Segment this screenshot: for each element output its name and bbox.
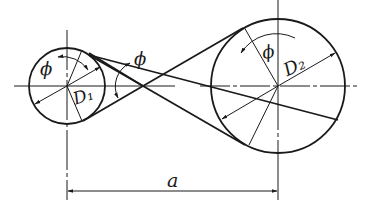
large-diameter-label: D₂ (279, 52, 308, 81)
wrap-angle-small-label: ϕ (40, 58, 52, 79)
cross-angle-label: ϕ (134, 48, 146, 69)
small-radius-to-upper-tangent (67, 50, 82, 86)
belt-to-large-bottom (143, 86, 245, 145)
small-diameter-line (35, 86, 67, 104)
small-wrap-angle-arc (58, 57, 88, 70)
cross-angle-arc (115, 63, 130, 98)
large-diameter-label-text: D₂ (279, 52, 308, 81)
small-diameter-label: D₁ (69, 83, 96, 109)
belt-to-large-top (143, 28, 243, 86)
wrap-angle-large-label: ϕ (260, 40, 276, 63)
small-diameter-label-text: D₁ (69, 83, 96, 109)
crossed-belt-diagram: ϕ D₁ ϕ ϕ D₂ a (0, 0, 372, 220)
center-distance-label: a (167, 169, 178, 191)
small-diameter-line-upper (67, 67, 100, 86)
